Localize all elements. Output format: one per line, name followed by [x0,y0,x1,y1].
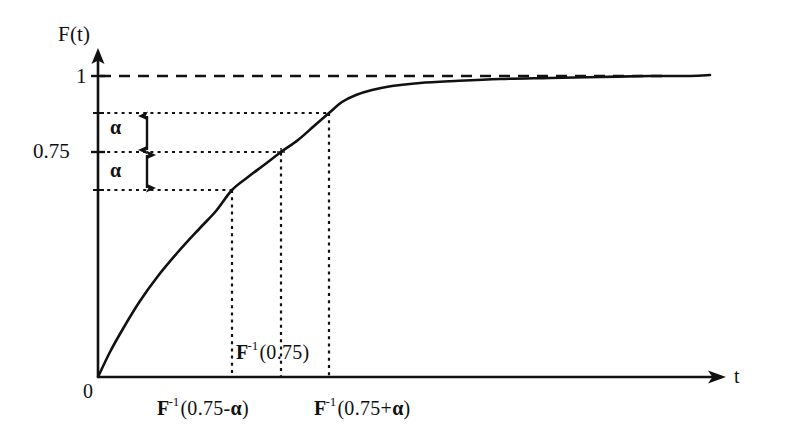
x-label-median-exponent: -1 [248,338,259,353]
x-label-upper-quantile: F-1(0.75+α) [314,396,411,418]
x-label-lower-arg-close: ) [242,397,249,419]
x-label-median: F-1(0.75) [236,340,310,362]
x-label-median-arg: (0.75) [259,341,309,363]
axis-lines [92,48,727,384]
cdf-curve [98,75,710,377]
y-tick-label-075: 0.75 [33,141,70,162]
alpha-label-upper: α [110,117,121,137]
diagram-canvas [0,0,785,439]
x-axis-label: t [734,366,740,386]
x-label-lower-f: F [157,397,170,419]
x-label-lower-quantile: F-1(0.75-α) [157,396,249,418]
x-label-upper-arg-alpha: α [392,397,403,419]
y-tick-label-1: 1 [76,66,87,87]
x-label-upper-arg-close: ) [404,397,411,419]
horizontal-guides [100,113,330,190]
x-label-median-f: F [236,341,249,363]
x-label-lower-arg-open: (0.75- [180,397,230,419]
x-label-upper-arg-open: (0.75+ [337,397,392,419]
x-label-upper-f: F [314,397,327,419]
origin-label: 0 [83,381,93,401]
x-label-lower-exponent: -1 [169,394,180,409]
x-label-lower-arg-alpha: α [231,397,242,419]
cdf-quantile-diagram: F(t) t 1 0.75 0 α α F-1(0.75) F-1(0.75-α… [0,0,785,439]
y-axis-label: F(t) [58,24,90,45]
alpha-label-lower: α [110,160,121,180]
x-label-upper-exponent: -1 [326,394,337,409]
